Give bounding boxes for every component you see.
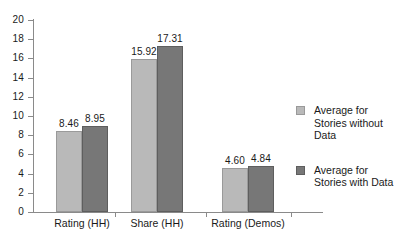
y-axis-tick-label: 20 (0, 15, 24, 25)
dark-gray-swatch-icon (296, 166, 305, 175)
legend-label: Average for Stories without Data (314, 104, 400, 142)
y-axis-tick-label: 6 (0, 149, 24, 159)
y-axis-tick-label: 4 (0, 169, 24, 179)
bar (222, 168, 248, 212)
light-gray-swatch-icon (296, 106, 305, 115)
bar (248, 166, 274, 212)
chart-legend: Average for Stories without Data Average… (296, 104, 400, 211)
x-axis-separator-tick (115, 212, 116, 217)
y-axis-tick-label: 18 (0, 34, 24, 44)
legend-entry-stories-without-data: Average for Stories without Data (296, 104, 400, 142)
bar (131, 59, 157, 212)
plot-area: 8.468.9515.9217.314.604.84 (33, 20, 323, 212)
bar (56, 131, 82, 212)
bar-value-label: 4.84 (241, 154, 281, 164)
y-axis-tick-label: 8 (0, 130, 24, 140)
y-axis-tick-label: 0 (0, 207, 24, 217)
bar (157, 46, 183, 212)
x-axis-line (33, 212, 323, 213)
x-axis-separator-tick (206, 212, 207, 217)
y-axis-tick-label: 2 (0, 188, 24, 198)
legend-label: Average for Stories with Data (314, 164, 400, 189)
y-axis-tick-label: 14 (0, 73, 24, 83)
y-axis-tick-label: 12 (0, 92, 24, 102)
y-axis-tick (28, 212, 33, 213)
x-axis-category-label: Rating (Demos) (188, 217, 308, 229)
bar-value-label: 17.31 (150, 34, 190, 44)
bar-value-label: 8.95 (75, 114, 115, 124)
y-axis-tick-label: 16 (0, 53, 24, 63)
x-axis-separator-tick (291, 212, 292, 217)
y-axis-tick-label: 10 (0, 111, 24, 121)
bar-chart: 20181614121086420 8.468.9515.9217.314.60… (0, 0, 400, 238)
bar (82, 126, 108, 212)
legend-entry-stories-with-data: Average for Stories with Data (296, 164, 400, 189)
